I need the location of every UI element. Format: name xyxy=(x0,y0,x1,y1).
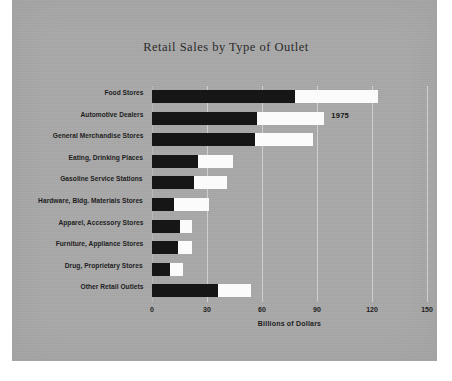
category-label: Drug, Proprietary Stores xyxy=(65,261,143,270)
bar-row: Gasoline Service Stations xyxy=(152,172,427,194)
bar-row: Automotive Dealers1975 xyxy=(152,108,427,130)
bar-row: Apparel, Accessory Stores xyxy=(152,216,427,238)
stacked-bar xyxy=(152,241,192,254)
bar-row: General Merchandise Stores xyxy=(152,129,427,151)
stacked-bar xyxy=(152,90,378,103)
bar-segment-light xyxy=(255,133,314,146)
x-tick-label: 30 xyxy=(203,306,211,313)
bar-segment-dark xyxy=(152,90,295,103)
bar-rows: Food StoresAutomotive Dealers1975General… xyxy=(152,86,427,302)
bar-segment-light xyxy=(194,176,227,189)
x-tick-label: 90 xyxy=(313,306,321,313)
bar-segment-dark xyxy=(152,198,174,211)
bar-segment-dark xyxy=(152,241,178,254)
bar-row: Hardware, Bldg. Materials Stores xyxy=(152,194,427,216)
category-label: Other Retail Outlets xyxy=(80,282,143,291)
bar-segment-light xyxy=(180,220,193,233)
x-tick-label: 120 xyxy=(366,306,378,313)
gridline-150 xyxy=(427,86,428,302)
plot-area: Food StoresAutomotive Dealers1975General… xyxy=(152,86,427,302)
bar-segment-light xyxy=(198,155,233,168)
bar-segment-light xyxy=(218,284,251,297)
bar-segment-dark xyxy=(152,155,198,168)
stacked-bar xyxy=(152,112,324,125)
bar-row: Food Stores xyxy=(152,86,427,108)
category-label: Apparel, Accessory Stores xyxy=(58,218,143,227)
stacked-bar xyxy=(152,198,209,211)
bar-segment-dark xyxy=(152,284,218,297)
bar-segment-dark xyxy=(152,112,257,125)
category-label: Furniture, Appliance Stores xyxy=(55,239,143,248)
bar-segment-light xyxy=(170,263,183,276)
stacked-bar xyxy=(152,176,227,189)
x-tick-label: 60 xyxy=(258,306,266,313)
bar-segment-light xyxy=(257,112,325,125)
x-tick-label: 150 xyxy=(421,306,433,313)
stacked-bar xyxy=(152,263,183,276)
category-label: General Merchandise Stores xyxy=(52,131,143,140)
bar-segment-dark xyxy=(152,220,180,233)
category-label: Automotive Dealers xyxy=(80,110,143,119)
bar-segment-light xyxy=(174,198,209,211)
stacked-bar xyxy=(152,284,251,297)
bar-segment-light xyxy=(295,90,378,103)
stacked-bar xyxy=(152,155,233,168)
bar-segment-dark xyxy=(152,263,170,276)
bar-row: Eating, Drinking Places xyxy=(152,151,427,173)
bar-row: Furniture, Appliance Stores xyxy=(152,237,427,259)
category-label: Eating, Drinking Places xyxy=(68,153,143,162)
category-label: Hardware, Bldg. Materials Stores xyxy=(38,196,143,205)
x-axis-label: Billions of Dollars xyxy=(152,320,427,327)
stacked-bar xyxy=(152,220,192,233)
x-tick-label: 0 xyxy=(150,306,154,313)
category-label: Gasoline Service Stations xyxy=(61,174,143,183)
bar-segment-light xyxy=(178,241,193,254)
bar-annotation: 1975 xyxy=(331,111,349,120)
bar-row: Drug, Proprietary Stores xyxy=(152,259,427,281)
stacked-bar xyxy=(152,133,313,146)
category-label: Food Stores xyxy=(104,88,143,97)
chart-title: Retail Sales by Type of Outlet xyxy=(0,40,452,55)
bar-row: Other Retail Outlets xyxy=(152,280,427,302)
bar-segment-dark xyxy=(152,176,194,189)
bar-segment-dark xyxy=(152,133,255,146)
chart-figure: Retail Sales by Type of Outlet Food Stor… xyxy=(0,0,452,381)
